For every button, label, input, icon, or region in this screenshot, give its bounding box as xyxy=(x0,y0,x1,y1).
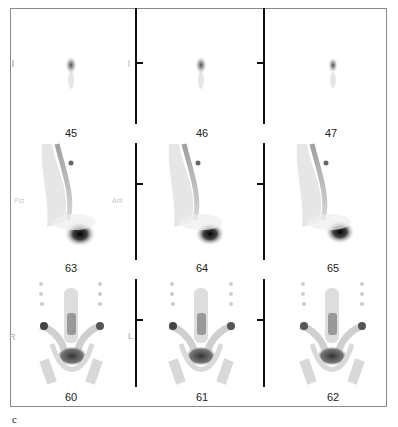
scan-frame-60 xyxy=(12,278,134,390)
frame-label: 64 xyxy=(196,262,208,274)
divider-row1-left xyxy=(135,8,137,124)
side-label-l: L xyxy=(128,332,133,340)
scan-frame-47 xyxy=(267,10,385,125)
divider-row2-left xyxy=(135,143,137,260)
side-label-r: R xyxy=(9,333,16,341)
frame-label: 47 xyxy=(325,127,337,139)
frame-label: 63 xyxy=(65,262,77,274)
frame-label: 46 xyxy=(196,127,208,139)
side-label-pst: Pst xyxy=(14,197,24,205)
scan-frame-64 xyxy=(139,142,263,260)
panel-letter: c xyxy=(12,413,17,425)
scan-frame-46 xyxy=(139,10,263,125)
tick-row2-right xyxy=(257,183,264,185)
tick-row1-right xyxy=(257,62,264,64)
scan-frame-65 xyxy=(267,142,385,260)
tick-row2-left xyxy=(136,183,143,185)
divider-row3-right xyxy=(263,279,265,387)
scan-frame-62 xyxy=(267,278,385,390)
frame-label: 45 xyxy=(65,127,77,139)
tick-row3-right xyxy=(257,319,264,321)
side-label-ant: Ant xyxy=(112,197,123,205)
frame-label: 61 xyxy=(196,391,208,403)
divider-row2-right xyxy=(263,143,265,260)
scan-frame-61 xyxy=(139,278,263,390)
divider-row3-left xyxy=(135,279,137,387)
scan-frame-45 xyxy=(12,10,134,125)
divider-row1-right xyxy=(263,8,265,124)
frame-label: 65 xyxy=(327,262,339,274)
tick-row3-left xyxy=(136,319,143,321)
frame-label: 62 xyxy=(327,391,339,403)
frame-label: 60 xyxy=(65,391,77,403)
tick-row1-left xyxy=(136,62,143,64)
